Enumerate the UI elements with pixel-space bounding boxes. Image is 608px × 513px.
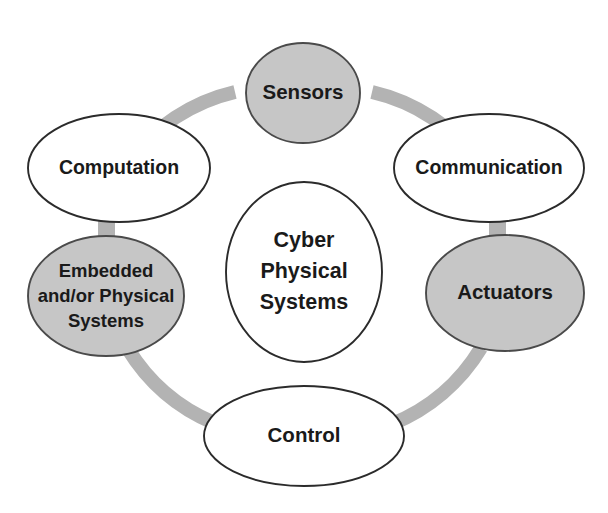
node-control[interactable]: Control — [204, 386, 404, 486]
diagram-canvas: Cyber Physical Systems Sensors Communica… — [0, 0, 608, 513]
node-embedded-line-2: and/or Physical — [38, 285, 175, 306]
node-control-label: Control — [268, 423, 341, 446]
center-node-line-3: Systems — [260, 290, 348, 314]
center-node-line-1: Cyber — [274, 228, 336, 252]
node-sensors-label: Sensors — [263, 80, 344, 103]
node-computation[interactable]: Computation — [28, 114, 210, 222]
node-embedded-line-3: Systems — [68, 310, 144, 331]
node-embedded-line-1: Embedded — [59, 260, 154, 281]
node-actuators[interactable]: Actuators — [426, 235, 584, 351]
center-node[interactable]: Cyber Physical Systems — [226, 182, 382, 362]
cps-cycle-diagram: Cyber Physical Systems Sensors Communica… — [0, 0, 608, 513]
connector-arc-control-embedded — [128, 349, 214, 423]
node-communication-label: Communication — [415, 156, 562, 178]
connector-arc-actuators-control — [392, 348, 481, 424]
node-actuators-label: Actuators — [457, 280, 553, 303]
node-computation-label: Computation — [59, 156, 179, 178]
node-sensors[interactable]: Sensors — [246, 43, 360, 143]
center-node-line-2: Physical — [260, 259, 347, 283]
node-embedded[interactable]: Embedded and/or Physical Systems — [28, 236, 184, 356]
node-communication[interactable]: Communication — [394, 114, 584, 222]
